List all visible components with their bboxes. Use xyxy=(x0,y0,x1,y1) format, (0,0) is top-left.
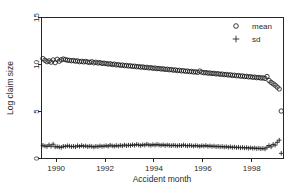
y-tick-label: 15 xyxy=(32,13,41,22)
legend-label-sd: sd xyxy=(252,35,260,44)
y-tick-label: 0 xyxy=(32,156,41,161)
x-tick-label: 1994 xyxy=(145,164,163,173)
x-axis-title: Accident month xyxy=(133,174,192,184)
x-tick-label: 1990 xyxy=(47,164,65,173)
y-tick-label: 5 xyxy=(32,109,41,114)
y-axis-title: Log claim size xyxy=(5,61,15,115)
y-tick-label: 10 xyxy=(32,60,41,69)
x-tick-label: 1992 xyxy=(96,164,114,173)
scatter-plot: 051015 19901992199419961998 Log claim si… xyxy=(0,0,296,189)
x-tick-label: 1998 xyxy=(243,164,261,173)
legend-label-mean: mean xyxy=(252,22,272,31)
chart-figure: 051015 19901992199419961998 Log claim si… xyxy=(0,0,296,189)
x-tick-label: 1996 xyxy=(194,164,212,173)
